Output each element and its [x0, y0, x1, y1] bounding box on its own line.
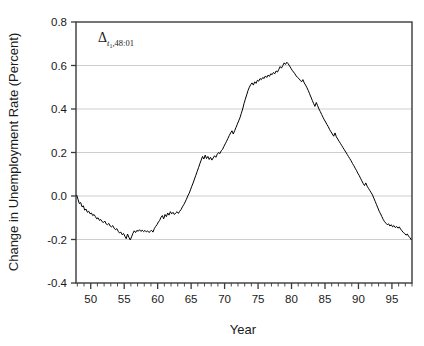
y-tick-label: 0.4 — [51, 103, 68, 115]
x-tick-label: 90 — [352, 293, 365, 305]
y-tick-label: 0.2 — [51, 147, 67, 159]
y-tick-label: -0.2 — [47, 234, 67, 246]
y-tick-label: 0.0 — [51, 190, 67, 202]
x-axis-title: Year — [230, 322, 257, 337]
annotation-subscript-rest: ,48:01 — [112, 38, 134, 48]
annotation-delta: Δ — [98, 30, 107, 45]
x-tick-label: 70 — [218, 293, 231, 305]
y-axis-title: Change in Unemployment Rate (Percent) — [6, 33, 21, 271]
x-tick-label: 95 — [386, 293, 399, 305]
x-tick-label: 50 — [84, 293, 97, 305]
x-tick-label: 55 — [118, 293, 131, 305]
chart-figure: 0.80.60.40.20.0-0.2-0.4 5055606570758085… — [0, 0, 424, 346]
y-tick-label: 0.8 — [51, 16, 67, 28]
y-tick-label: 0.6 — [51, 60, 67, 72]
x-tick-label: 60 — [151, 293, 164, 305]
y-tick-label: -0.4 — [47, 277, 67, 289]
x-tick-label: 65 — [185, 293, 198, 305]
x-tick-label: 80 — [285, 293, 298, 305]
x-tick-label: 75 — [252, 293, 265, 305]
line-chart: 0.80.60.40.20.0-0.2-0.4 5055606570758085… — [0, 0, 424, 346]
x-tick-label: 85 — [319, 293, 332, 305]
